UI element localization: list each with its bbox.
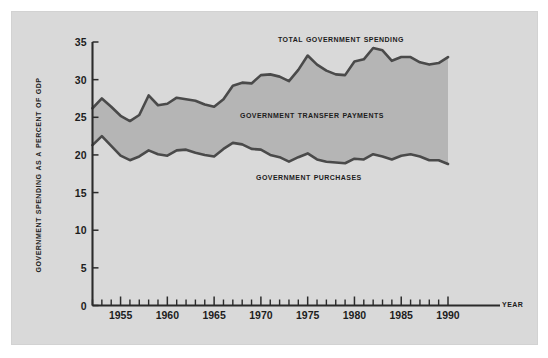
y-tick-label: 25 (75, 111, 87, 123)
y-axis-tick-labels: 05101520253035 (75, 36, 87, 312)
x-tick-label: 1960 (156, 309, 180, 321)
annotation-government-transfer-payments: Government Transfer Payments (240, 110, 384, 120)
annotation-government-purchases: Government Purchases (256, 172, 362, 182)
transfer-payments-band (93, 48, 449, 164)
x-tick-label: 1965 (202, 309, 226, 321)
chart-figure: 05101520253035 1955196019651970197519801… (0, 0, 548, 358)
x-tick-label: 1955 (109, 309, 133, 321)
y-tick-label: 10 (75, 224, 87, 236)
y-tick-label: 20 (75, 149, 87, 161)
x-tick-label: 1985 (390, 309, 414, 321)
y-tick-label: 30 (75, 74, 87, 86)
y-axis-title: Government Spending as a Percent of GDP (33, 78, 43, 273)
x-axis-tick-labels: 19551960196519701975198019851990 (109, 309, 460, 321)
x-tick-label: 1975 (296, 309, 320, 321)
y-tick-label: 0 (81, 300, 87, 312)
y-axis-title-wrapper: Government Spending as a Percent of GDP (30, 44, 46, 306)
annotation-total-government-spending: Total Government Spending (278, 34, 404, 44)
x-axis-title: Year (502, 299, 523, 309)
x-axis-ticks (93, 297, 449, 306)
y-tick-label: 15 (75, 187, 87, 199)
x-tick-label: 1970 (249, 309, 273, 321)
y-tick-label: 5 (81, 262, 87, 274)
x-tick-label: 1980 (343, 309, 367, 321)
y-tick-label: 35 (75, 36, 87, 48)
x-tick-label: 1990 (436, 309, 460, 321)
